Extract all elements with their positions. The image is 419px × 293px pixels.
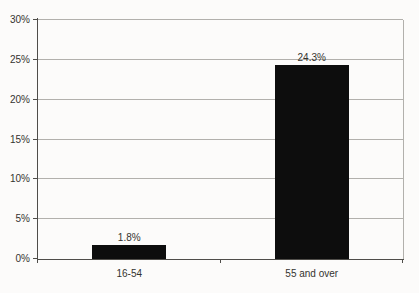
bar (275, 65, 349, 259)
x-axis-line (37, 259, 404, 260)
y-axis-line (37, 18, 38, 259)
bar-value-label: 24.3% (272, 51, 352, 64)
y-tick-label: 30% (0, 13, 30, 26)
x-tick-mark (220, 259, 221, 263)
bar (92, 245, 166, 259)
y-tick-label: 0% (0, 252, 30, 265)
y-tick-label: 20% (0, 93, 30, 106)
y-tick-label: 10% (0, 172, 30, 185)
plot-right-border (403, 20, 404, 259)
x-category-label: 16-54 (38, 267, 221, 280)
y-tick-label: 5% (0, 212, 30, 225)
y-tick-label: 15% (0, 133, 30, 146)
x-tick-mark (37, 259, 38, 263)
y-tick-label: 25% (0, 53, 30, 66)
bar-value-label: 1.8% (89, 231, 169, 244)
x-tick-mark (402, 259, 403, 263)
gridline (38, 19, 403, 20)
bar-chart: 0%5%10%15%20%25%30%1.8%16-5424.3%55 and … (0, 0, 419, 293)
x-category-label: 55 and over (221, 267, 404, 280)
